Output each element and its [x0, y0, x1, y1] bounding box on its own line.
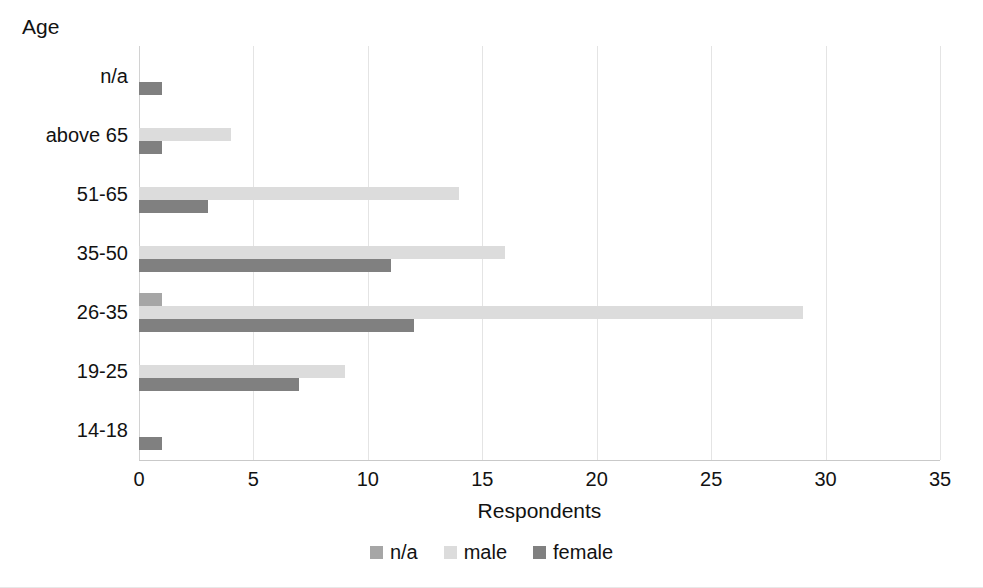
bar-chart: Age n/aabove 6551-6535-5026-3519-2514-18…	[0, 0, 983, 588]
bar-slot	[139, 319, 940, 332]
y-tick-label: 51-65	[0, 182, 128, 206]
bar-male	[139, 365, 345, 378]
bar-slot	[139, 174, 940, 187]
bar-group	[139, 46, 940, 105]
bar-group	[139, 401, 940, 460]
bar-female	[139, 259, 391, 272]
x-tick-label: 10	[357, 466, 379, 492]
legend-label: male	[464, 540, 507, 564]
y-tick-label: 14-18	[0, 418, 128, 442]
bar-male	[139, 187, 459, 200]
bar-female	[139, 437, 162, 450]
bar-slot	[139, 378, 940, 391]
bar-group	[139, 105, 940, 164]
legend-label: n/a	[390, 540, 418, 564]
chart-legend: n/amalefemale	[0, 540, 983, 564]
bar-slot	[139, 306, 940, 319]
legend-item[interactable]: n/a	[370, 540, 418, 564]
bar-slot	[139, 128, 940, 141]
bar-slot	[139, 437, 940, 450]
bar-slot	[139, 187, 940, 200]
y-tick-label: above 65	[0, 123, 128, 147]
y-tick-label: n/a	[0, 64, 128, 88]
bar-slot	[139, 259, 940, 272]
bar-female	[139, 141, 162, 154]
bar-male	[139, 128, 231, 141]
bar-slot	[139, 200, 940, 213]
x-tick-label: 30	[814, 466, 836, 492]
x-tick-label: 5	[248, 466, 259, 492]
bar-slot	[139, 233, 940, 246]
bar-group	[139, 342, 940, 401]
bar-female	[139, 319, 414, 332]
x-tick-label: 15	[471, 466, 493, 492]
y-tick-label: 26-35	[0, 300, 128, 324]
x-axis-title: Respondents	[139, 498, 940, 524]
x-tick-label: 35	[929, 466, 951, 492]
x-axis-line	[139, 460, 940, 461]
legend-item[interactable]: male	[444, 540, 507, 564]
bar-male	[139, 306, 803, 319]
bar-slot	[139, 352, 940, 365]
bar-male	[139, 246, 505, 259]
bar-group	[139, 223, 940, 282]
bar-slot	[139, 56, 940, 69]
x-tick-label: 0	[133, 466, 144, 492]
y-axis-tick-labels: n/aabove 6551-6535-5026-3519-2514-18	[0, 46, 128, 460]
bar-groups	[139, 46, 940, 460]
legend-swatch-icon	[370, 546, 383, 559]
bar-slot	[139, 365, 940, 378]
bar-female	[139, 378, 299, 391]
bar-slot	[139, 293, 940, 306]
x-tick-label: 25	[700, 466, 722, 492]
bar-slot	[139, 82, 940, 95]
bar-group	[139, 283, 940, 342]
gridline-35	[940, 46, 941, 460]
x-axis-tick-labels: 05101520253035	[139, 466, 940, 496]
bar-group	[139, 164, 940, 223]
legend-item[interactable]: female	[533, 540, 613, 564]
y-tick-label: 19-25	[0, 359, 128, 383]
bar-slot	[139, 141, 940, 154]
bar-slot	[139, 411, 940, 424]
legend-swatch-icon	[533, 546, 546, 559]
bar-slot	[139, 115, 940, 128]
bar-slot	[139, 424, 940, 437]
legend-label: female	[553, 540, 613, 564]
bar-female	[139, 200, 208, 213]
bar-na	[139, 293, 162, 306]
plot-area	[139, 46, 940, 460]
bar-female	[139, 82, 162, 95]
bar-slot	[139, 246, 940, 259]
y-tick-label: 35-50	[0, 241, 128, 265]
y-axis-title: Age	[22, 14, 59, 40]
x-tick-label: 20	[586, 466, 608, 492]
bar-slot	[139, 69, 940, 82]
legend-swatch-icon	[444, 546, 457, 559]
